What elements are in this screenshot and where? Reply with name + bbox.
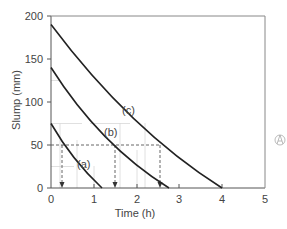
curve-label-c: (c) <box>122 104 135 116</box>
y-tick-100: 100 <box>25 96 43 108</box>
x-tick-1: 1 <box>91 193 97 205</box>
arrowheads <box>60 182 163 188</box>
ticks <box>47 16 222 188</box>
curve-label-a: (a) <box>77 158 90 170</box>
reference-lines <box>51 145 160 183</box>
x-axis-title: Time (h) <box>115 207 156 219</box>
x-tick-3: 3 <box>176 193 182 205</box>
x-tick-4: 4 <box>219 193 225 205</box>
y-tick-0: 0 <box>37 182 43 194</box>
y-tick-200: 200 <box>25 10 43 22</box>
gridlines <box>51 81 145 189</box>
x-tick-2: 2 <box>134 193 140 205</box>
arrow-down-icon <box>113 182 118 188</box>
y-tick-150: 150 <box>25 53 43 65</box>
curve-label-b: (b) <box>104 126 117 138</box>
x-tick-0: 0 <box>48 193 54 205</box>
x-tick-5: 5 <box>262 193 268 205</box>
y-tick-50: 50 <box>31 139 43 151</box>
slump-time-chart: (a) (b) (c) 0 50 100 150 200 0 1 2 3 4 5… <box>0 0 287 229</box>
y-axis-title: Slump (mm) <box>10 70 22 130</box>
stamp-icon <box>275 135 285 145</box>
